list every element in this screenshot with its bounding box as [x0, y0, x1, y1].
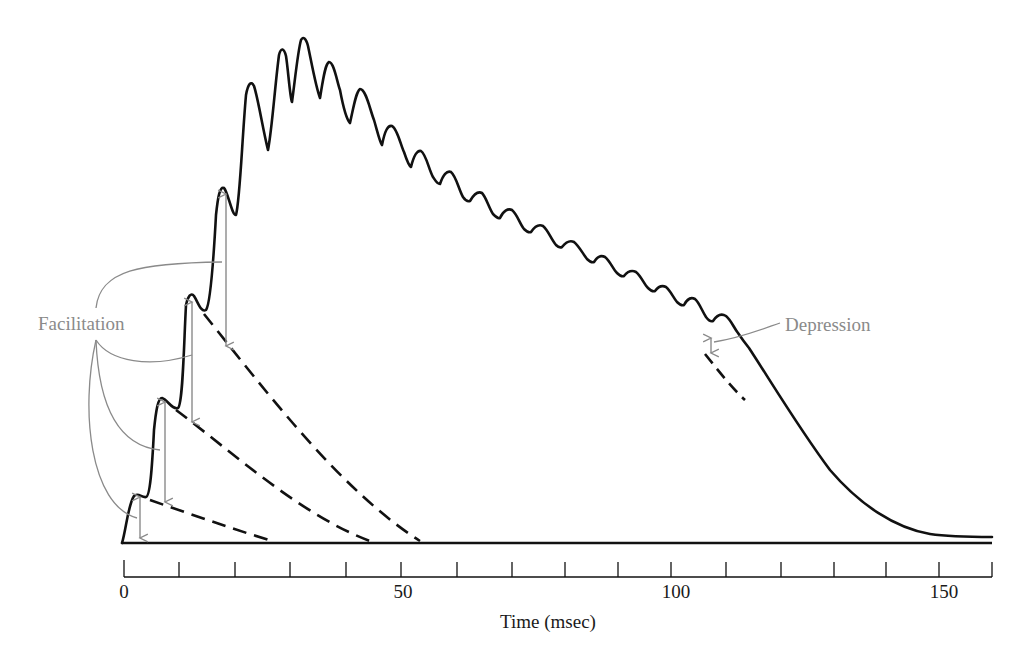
decay-dashed-3: [204, 314, 420, 541]
depression-leader-line: [714, 323, 780, 342]
x-tick-label-0: 0: [119, 581, 129, 602]
x-tick-label-100: 100: [662, 581, 691, 602]
facilitation-depression-chart: Facilitation Depression 0 50 100 150 Tim…: [0, 0, 1025, 669]
x-tick-label-150: 150: [930, 581, 959, 602]
x-axis-title: Time (msec): [500, 611, 596, 633]
response-trace: [122, 38, 992, 543]
depression-label: Depression: [785, 314, 871, 335]
facilitation-leader-lines: [89, 262, 222, 518]
decay-dashed-depression: [705, 354, 745, 400]
decay-dashed-1: [150, 500, 272, 541]
facilitation-label: Facilitation: [38, 313, 125, 334]
x-axis: [124, 560, 992, 577]
x-tick-label-50: 50: [394, 581, 413, 602]
